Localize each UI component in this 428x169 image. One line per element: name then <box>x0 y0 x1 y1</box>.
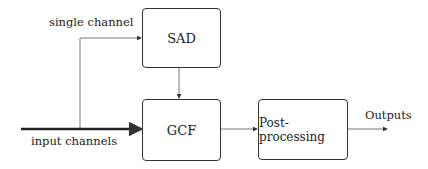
sad-block: SAD <box>142 8 221 68</box>
input-channels-label: input channels <box>31 134 117 148</box>
gcf-block: GCF <box>142 99 221 161</box>
sad-label: SAD <box>167 31 196 46</box>
single-channel-arrow <box>80 38 141 129</box>
post-processing-block: Post-processing <box>258 99 348 160</box>
outputs-label: Outputs <box>365 108 412 122</box>
post-processing-label: Post-processing <box>259 116 347 144</box>
single-channel-label: single channel <box>49 15 134 29</box>
gcf-label: GCF <box>167 123 196 138</box>
